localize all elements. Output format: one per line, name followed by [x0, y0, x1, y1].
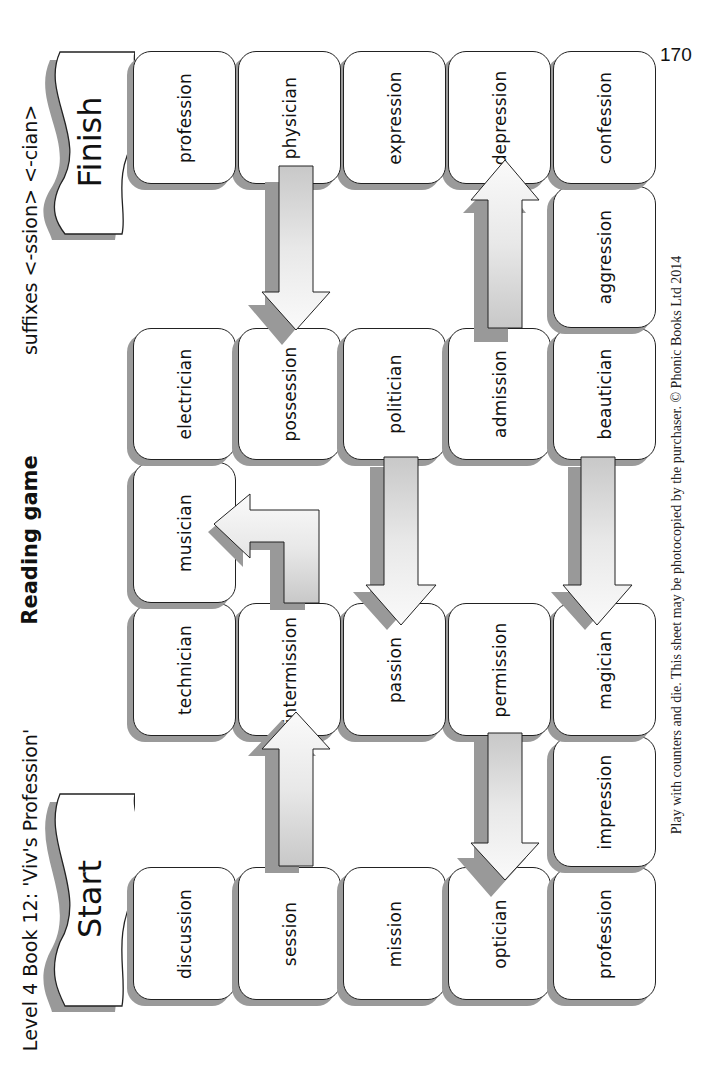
board-cell-profession-start[interactable]: profession	[553, 867, 656, 1000]
board-cell-permission[interactable]: permission	[448, 603, 551, 736]
start-label: Start	[71, 860, 109, 938]
arrow-session-to-intermission	[248, 712, 330, 873]
board-cell-depression[interactable]: depression	[448, 51, 551, 184]
footer-note	[296, 560, 316, 580]
board-cell-discussion[interactable]: discussion	[133, 867, 236, 1000]
start-banner: Start	[40, 792, 135, 1012]
board-cell-profession-finish[interactable]: profession	[133, 51, 236, 184]
page-header-game-title: Reading game	[10, 440, 50, 640]
board-cell-mission[interactable]: mission	[343, 867, 446, 1000]
board-cell-admission[interactable]: admission	[448, 328, 551, 460]
board-cell-politician[interactable]: politician	[343, 328, 446, 460]
board-cell-musician[interactable]: musician	[133, 462, 236, 603]
board-cell-impression[interactable]: impression	[553, 736, 656, 867]
board-cell-expression[interactable]: expression	[343, 51, 446, 184]
board-cell-confession[interactable]: confession	[553, 51, 656, 184]
board-cell-passion[interactable]: passion	[343, 603, 446, 736]
board-cell-optician[interactable]: optician	[448, 867, 551, 1000]
board-cell-electrician[interactable]: electrician	[133, 328, 236, 460]
board-cell-beautician[interactable]: beautician	[553, 328, 656, 460]
board-cell-possession[interactable]: possession	[238, 328, 341, 460]
finish-label: Finish	[71, 96, 109, 187]
arrow-physician-to-possession	[248, 166, 330, 345]
board-cell-intermission[interactable]: intermission	[238, 603, 341, 736]
footer-text-wrap: Play with counters and die. This sheet m…	[665, 235, 689, 855]
board-cell-magician[interactable]: magician	[553, 603, 656, 736]
board-cell-physician[interactable]: physician	[238, 51, 341, 184]
board-cell-technician[interactable]: technician	[133, 603, 236, 736]
arrow-admission-to-depression	[463, 160, 539, 342]
page-number: 170	[660, 44, 692, 66]
board-cell-aggression[interactable]: aggression	[553, 186, 656, 328]
finish-banner: Finish	[40, 50, 135, 240]
board-cell-session[interactable]: session	[238, 867, 341, 1000]
